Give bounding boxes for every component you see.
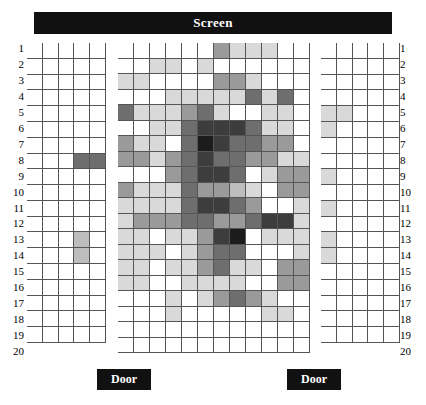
- seat-right-block-r12-c3[interactable]: [353, 217, 369, 233]
- seat-middle-block-r5-c7[interactable]: [214, 105, 230, 121]
- seat-right-block-r19-c3[interactable]: [353, 327, 369, 343]
- seat-left-block-r7-c3[interactable]: [59, 138, 75, 154]
- seat-right-block-r6-c4[interactable]: [368, 122, 384, 138]
- seat-middle-block-r12-c8[interactable]: [230, 214, 246, 230]
- seat-middle-block-r16-c5[interactable]: [182, 276, 198, 292]
- seat-left-block-r17-c2[interactable]: [43, 296, 59, 312]
- seat-left-block-r17-c5[interactable]: [90, 296, 106, 312]
- seat-right-block-r15-c5[interactable]: [384, 264, 400, 280]
- seat-middle-block-r2-c12[interactable]: [294, 59, 310, 75]
- seat-block-left[interactable]: [27, 43, 106, 343]
- seat-middle-block-r10-c12[interactable]: [294, 183, 310, 199]
- seat-middle-block-r17-c2[interactable]: [134, 291, 150, 307]
- seat-middle-block-r9-c11[interactable]: [278, 167, 294, 183]
- seat-middle-block-r7-c12[interactable]: [294, 136, 310, 152]
- seat-middle-block-r2-c11[interactable]: [278, 59, 294, 75]
- seat-middle-block-r12-c1[interactable]: [118, 214, 134, 230]
- seat-middle-block-r9-c10[interactable]: [262, 167, 278, 183]
- seat-left-block-r12-c4[interactable]: [74, 217, 90, 233]
- seat-middle-block-r7-c4[interactable]: [166, 136, 182, 152]
- seat-right-block-r18-c4[interactable]: [368, 311, 384, 327]
- seat-middle-block-r20-c2[interactable]: [134, 338, 150, 354]
- seat-middle-block-r17-c6[interactable]: [198, 291, 214, 307]
- seat-right-block-r17-c2[interactable]: [337, 296, 353, 312]
- seat-middle-block-r4-c11[interactable]: [278, 90, 294, 106]
- seat-middle-block-r5-c10[interactable]: [262, 105, 278, 121]
- seat-left-block-r11-c3[interactable]: [59, 201, 75, 217]
- seat-middle-block-r9-c6[interactable]: [198, 167, 214, 183]
- seat-left-block-r15-c4[interactable]: [74, 264, 90, 280]
- seat-middle-block-r19-c3[interactable]: [150, 322, 166, 338]
- seat-middle-block-r13-c9[interactable]: [246, 229, 262, 245]
- seat-middle-block-r4-c10[interactable]: [262, 90, 278, 106]
- seat-middle-block-r4-c5[interactable]: [182, 90, 198, 106]
- seat-right-block-r1-c3[interactable]: [353, 43, 369, 59]
- seat-middle-block-r8-c12[interactable]: [294, 152, 310, 168]
- seat-left-block-r19-c2[interactable]: [43, 327, 59, 343]
- seat-left-block-r9-c2[interactable]: [43, 169, 59, 185]
- seat-left-block-r16-c2[interactable]: [43, 280, 59, 296]
- seat-left-block-r9-c4[interactable]: [74, 169, 90, 185]
- seat-right-block-r14-c4[interactable]: [368, 248, 384, 264]
- seat-middle-block-r6-c5[interactable]: [182, 121, 198, 137]
- seat-left-block-r5-c2[interactable]: [43, 106, 59, 122]
- seat-middle-block-r4-c6[interactable]: [198, 90, 214, 106]
- seat-right-block-r1-c5[interactable]: [384, 43, 400, 59]
- seat-middle-block-r18-c8[interactable]: [230, 307, 246, 323]
- seat-middle-block-r16-c11[interactable]: [278, 276, 294, 292]
- seat-middle-block-r14-c12[interactable]: [294, 245, 310, 261]
- seat-middle-block-r15-c10[interactable]: [262, 260, 278, 276]
- seat-right-block-r3-c2[interactable]: [337, 75, 353, 91]
- seat-left-block-r2-c5[interactable]: [90, 59, 106, 75]
- seat-middle-block-r4-c8[interactable]: [230, 90, 246, 106]
- seat-right-block-r11-c3[interactable]: [353, 201, 369, 217]
- seat-middle-block-r12-c11[interactable]: [278, 214, 294, 230]
- seat-middle-block-r12-c12[interactable]: [294, 214, 310, 230]
- seat-middle-block-r1-c5[interactable]: [182, 43, 198, 59]
- seat-middle-block-r11-c1[interactable]: [118, 198, 134, 214]
- seat-middle-block-r6-c1[interactable]: [118, 121, 134, 137]
- seat-middle-block-r8-c5[interactable]: [182, 152, 198, 168]
- seat-right-block-r9-c5[interactable]: [384, 169, 400, 185]
- seat-left-block-r2-c3[interactable]: [59, 59, 75, 75]
- seat-left-block-r3-c2[interactable]: [43, 75, 59, 91]
- seat-middle-block-r1-c8[interactable]: [230, 43, 246, 59]
- seat-right-block-r3-c5[interactable]: [384, 75, 400, 91]
- seat-right-block-r8-c4[interactable]: [368, 154, 384, 170]
- seat-left-block-r4-c2[interactable]: [43, 90, 59, 106]
- seat-right-block-r7-c2[interactable]: [337, 138, 353, 154]
- seat-middle-block-r20-c3[interactable]: [150, 338, 166, 354]
- seat-right-block-r18-c2[interactable]: [337, 311, 353, 327]
- seat-right-block-r8-c5[interactable]: [384, 154, 400, 170]
- seat-left-block-r8-c2[interactable]: [43, 154, 59, 170]
- seat-middle-block-r3-c4[interactable]: [166, 74, 182, 90]
- seat-middle-block-r15-c12[interactable]: [294, 260, 310, 276]
- seat-right-block-r11-c5[interactable]: [384, 201, 400, 217]
- seat-left-block-r15-c1[interactable]: [27, 264, 43, 280]
- seat-left-block-r9-c5[interactable]: [90, 169, 106, 185]
- seat-left-block-r16-c3[interactable]: [59, 280, 75, 296]
- seat-middle-block-r19-c9[interactable]: [246, 322, 262, 338]
- seat-middle-block-r1-c7[interactable]: [214, 43, 230, 59]
- seat-middle-block-r20-c10[interactable]: [262, 338, 278, 354]
- seat-left-block-r6-c3[interactable]: [59, 122, 75, 138]
- seat-middle-block-r20-c12[interactable]: [294, 338, 310, 354]
- seat-left-block-r11-c5[interactable]: [90, 201, 106, 217]
- seat-middle-block-r13-c6[interactable]: [198, 229, 214, 245]
- seat-middle-block-r18-c10[interactable]: [262, 307, 278, 323]
- seat-left-block-r8-c1[interactable]: [27, 154, 43, 170]
- seat-left-block-r12-c5[interactable]: [90, 217, 106, 233]
- seat-right-block-r12-c5[interactable]: [384, 217, 400, 233]
- seat-middle-block-r13-c2[interactable]: [134, 229, 150, 245]
- seat-middle-block-r1-c12[interactable]: [294, 43, 310, 59]
- seat-middle-block-r2-c7[interactable]: [214, 59, 230, 75]
- seat-middle-block-r16-c7[interactable]: [214, 276, 230, 292]
- seat-middle-block-r13-c11[interactable]: [278, 229, 294, 245]
- seat-middle-block-r3-c5[interactable]: [182, 74, 198, 90]
- seat-middle-block-r2-c1[interactable]: [118, 59, 134, 75]
- seat-left-block-r1-c3[interactable]: [59, 43, 75, 59]
- seat-left-block-r18-c2[interactable]: [43, 311, 59, 327]
- seat-middle-block-r17-c3[interactable]: [150, 291, 166, 307]
- seat-right-block-r12-c1[interactable]: [321, 217, 337, 233]
- seat-left-block-r15-c3[interactable]: [59, 264, 75, 280]
